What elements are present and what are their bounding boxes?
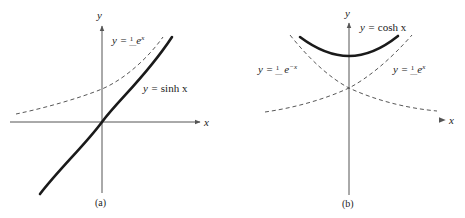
panel-a-sinh-curve (40, 37, 172, 194)
hyperbolic-functions-figure: x y y = 1—ex y = sinh x (a) x y (0, 0, 465, 218)
panel-b-x-axis-label: x (448, 114, 454, 126)
panel-a: x y y = 1—ex y = sinh x (a) (10, 9, 209, 209)
panel-b-y-axis-label: y (344, 7, 350, 19)
panel-b-half-exp-neg-label: y = 1—e−x (257, 63, 298, 78)
panel-b-caption: (b) (342, 198, 354, 210)
panel-a-half-exp-label: y = 1—ex (111, 34, 145, 49)
panel-b-half-exp-label: y = 1—ex (392, 63, 426, 78)
panel-a-caption: (a) (95, 197, 106, 209)
panel-b: x y y = cosh x y = 1—e−x y = 1—ex (b) (257, 7, 454, 210)
panel-b-cosh-label: y = cosh x (359, 21, 407, 33)
panel-a-sinh-label: y = sinh x (142, 82, 188, 94)
panel-a-x-axis-label: x (203, 116, 209, 128)
panel-a-y-axis-label: y (96, 9, 102, 21)
